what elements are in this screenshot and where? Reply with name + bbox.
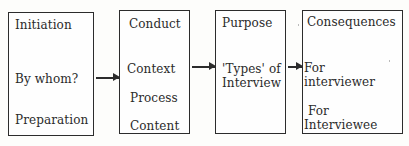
initiation-by-whom: By whom? [15, 72, 78, 86]
arrow-initiation-to-conduct [96, 77, 119, 79]
initiation-box: Initiation By whom? Preparation [8, 12, 94, 136]
consequences-title: Consequences [307, 15, 396, 29]
conduct-content: Content [130, 119, 179, 133]
consequences-for-2: For [308, 104, 329, 118]
conduct-process: Process [130, 91, 178, 105]
purpose-interview: Interview [222, 76, 281, 90]
consequences-box: Consequences For interviewer For Intervi… [302, 10, 403, 134]
scan-speck [389, 60, 390, 62]
conduct-title: Conduct [129, 17, 181, 31]
conduct-box: Conduct Context Process Content [119, 10, 190, 134]
purpose-title: Purpose [222, 16, 272, 30]
arrow-purpose-to-consequences [288, 66, 302, 68]
consequences-interviewee: Interviewee [304, 118, 377, 132]
arrow-conduct-to-purpose [192, 66, 215, 68]
conduct-context: Context [127, 62, 175, 76]
consequences-interviewer: interviewer [304, 75, 375, 89]
purpose-box: Purpose 'Types' of Interview [215, 10, 286, 134]
scan-speck [298, 24, 299, 26]
purpose-types-of: 'Types' of [222, 62, 281, 76]
consequences-for-1: For [304, 61, 325, 75]
initiation-preparation: Preparation [15, 113, 88, 127]
initiation-title: Initiation [15, 18, 72, 32]
